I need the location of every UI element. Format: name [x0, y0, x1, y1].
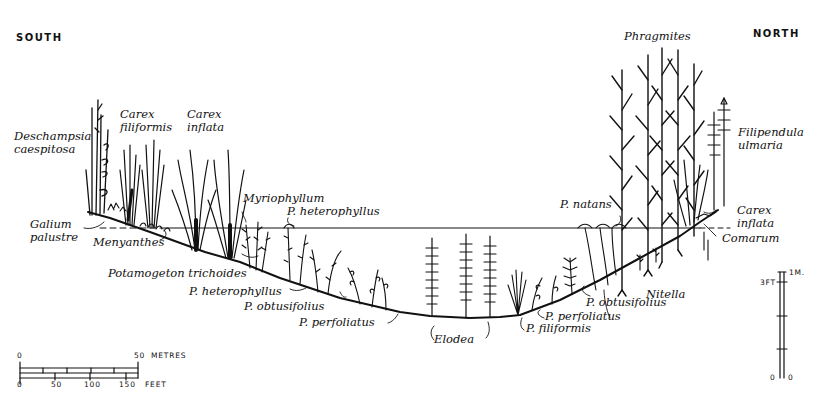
label-carex-filiformis-species: filiformis: [120, 121, 172, 134]
scale-metres-zero: 0: [17, 351, 23, 360]
label-p-filiformis: P. filiformis: [526, 322, 591, 334]
p-filiformis-plant: [508, 270, 526, 315]
label-p-heterophyllus-top: P. heterophyllus: [287, 205, 380, 217]
scale-feet-tick-100: 100: [84, 380, 101, 389]
filipendula-plant: [708, 98, 730, 210]
south-label: SOUTH: [16, 32, 63, 43]
scale-vertical-zero-left: 0: [770, 373, 776, 382]
label-menyanthes: Menyanthes: [93, 236, 164, 248]
label-potamogeton-trichoides: Potamogeton trichoides: [108, 267, 247, 279]
label-carex-inflata-left-species: inflata: [187, 121, 224, 134]
p-obtusifolius-left-plant: [310, 250, 341, 294]
label-phragmites: Phragmites: [624, 30, 691, 42]
p-obtusifolius-right-plant: [563, 258, 577, 294]
label-p-heterophyllus-low: P. heterophyllus: [189, 285, 282, 297]
label-p-perfoliatus-left: P. perfoliatus: [299, 316, 375, 328]
label-galium-species: palustre: [30, 231, 78, 244]
label-myriophyllum: Myriophyllum: [243, 192, 324, 204]
scale-vertical-zero-right: 0: [788, 373, 794, 382]
label-comarum: Comarum: [722, 232, 779, 244]
p-heterophyllus-plant: [284, 224, 308, 284]
label-carex-filiformis: Carex filiformis: [120, 108, 172, 134]
label-carex-inflata-right: Carex inflata: [737, 204, 774, 230]
label-carex-inflata-left: Carex inflata: [187, 108, 224, 134]
scale-metres-unit: METRES: [151, 351, 186, 360]
label-carex-inflata-right-species: inflata: [737, 217, 774, 230]
label-galium-palustre: Galium palustre: [30, 218, 78, 244]
scale-metres-max: 50: [134, 351, 145, 360]
scale-feet-tick-150: 150: [119, 380, 136, 389]
vertical-scale-bar: [777, 272, 787, 378]
carex-inflata-left-plant: [172, 150, 246, 258]
label-elodea: Elodea: [434, 333, 474, 345]
scale-feet-unit: FEET: [145, 380, 167, 389]
label-p-obtusifolius-left: P. obtusifolius: [244, 300, 324, 312]
north-label: NORTH: [753, 28, 800, 39]
phragmites-plant: [610, 48, 704, 296]
label-filipendula-species: ulmaria: [738, 139, 804, 152]
lake-cross-section-diagram: SOUTH NORTH Deschampsia caespitosa Carex…: [0, 0, 826, 404]
diagram-drawing: [0, 0, 826, 404]
carex-filiformis-plant: [120, 140, 164, 228]
label-p-natans: P. natans: [560, 198, 612, 210]
scale-vertical-1m: 1M.: [789, 268, 805, 277]
carex-inflata-right-plant: [674, 160, 716, 226]
deschampsia-plant: [86, 100, 108, 215]
label-p-perfoliatus-right: P. perfoliatus: [545, 310, 621, 322]
scale-feet-tick-50: 50: [51, 380, 62, 389]
scale-feet-tick-0: 0: [17, 380, 23, 389]
label-filipendula-ulmaria: Filipendula ulmaria: [738, 126, 804, 152]
scale-vertical-3ft: 3FT: [760, 278, 776, 287]
elodea-plant: [426, 234, 496, 318]
label-nitella: Nitella: [646, 288, 685, 300]
label-deschampsia: Deschampsia caespitosa: [14, 130, 91, 156]
label-deschampsia-species: caespitosa: [14, 143, 91, 156]
p-natans-plant: [578, 224, 626, 290]
